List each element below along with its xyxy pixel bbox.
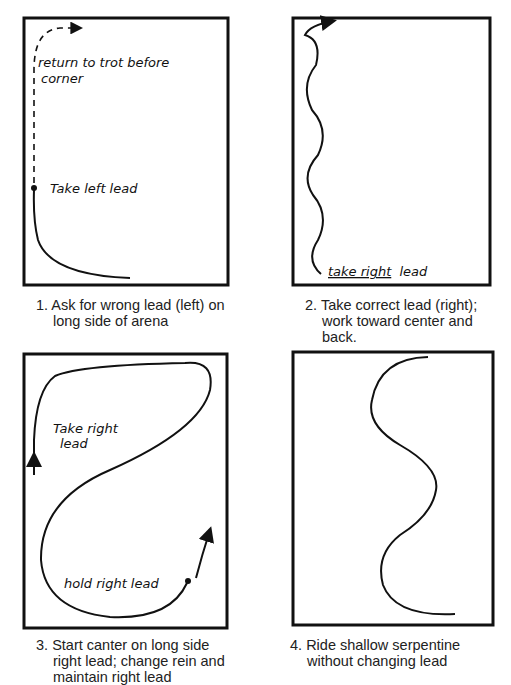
annotation-take-right-lead: take right lead bbox=[328, 264, 428, 279]
canter-path bbox=[34, 190, 130, 278]
caption-line: right lead; change rein and bbox=[36, 653, 225, 669]
annotation-take-left-lead: Take left lead bbox=[50, 181, 138, 196]
arena-outline bbox=[293, 18, 490, 285]
arena-outline bbox=[293, 352, 493, 625]
annotation-corner: corner bbox=[41, 71, 85, 86]
caption-line: Start canter on long side bbox=[52, 637, 209, 653]
annotation-lead: lead bbox=[60, 436, 89, 451]
serpentine-path bbox=[371, 357, 455, 614]
caption-panel-1: 1. Ask for wrong lead (left) on long sid… bbox=[36, 297, 225, 329]
panel-2-diagram: take right lead bbox=[293, 18, 490, 285]
wavy-path bbox=[305, 21, 333, 274]
caption-line: long side of arena bbox=[36, 313, 225, 329]
panel-3-diagram: Take right lead hold right lead bbox=[24, 354, 227, 628]
caption-line: Take correct lead (right); bbox=[321, 297, 477, 313]
caption-number: 2. bbox=[305, 297, 317, 313]
annotation-return-to-trot: return to trot before bbox=[38, 55, 169, 70]
annotation-take-right: Take right bbox=[53, 421, 119, 436]
caption-line: without changing lead bbox=[290, 653, 460, 669]
caption-number: 4. bbox=[290, 637, 302, 653]
caption-panel-4: 4. Ride shallow serpentine without chang… bbox=[290, 637, 460, 669]
arrow-up-right bbox=[196, 530, 210, 578]
caption-number: 3. bbox=[36, 637, 48, 653]
annotation-hold-right-lead: hold right lead bbox=[64, 576, 159, 591]
caption-line: Ask for wrong lead (left) on bbox=[51, 297, 224, 313]
panel-4-diagram bbox=[293, 352, 493, 625]
caption-panel-2: 2. Take correct lead (right); work towar… bbox=[305, 297, 511, 345]
panel-1-diagram: return to trot before corner Take left l… bbox=[24, 18, 228, 285]
caption-line: Ride shallow serpentine bbox=[306, 637, 460, 653]
caption-number: 1. bbox=[36, 297, 48, 313]
lead-point bbox=[31, 185, 37, 191]
dashed-trot-path bbox=[34, 28, 80, 183]
caption-line: work toward center and back. bbox=[305, 313, 511, 345]
caption-panel-3: 3. Start canter on long side right lead;… bbox=[36, 637, 225, 685]
caption-line: maintain right lead bbox=[36, 669, 225, 685]
lead-point bbox=[185, 578, 191, 584]
